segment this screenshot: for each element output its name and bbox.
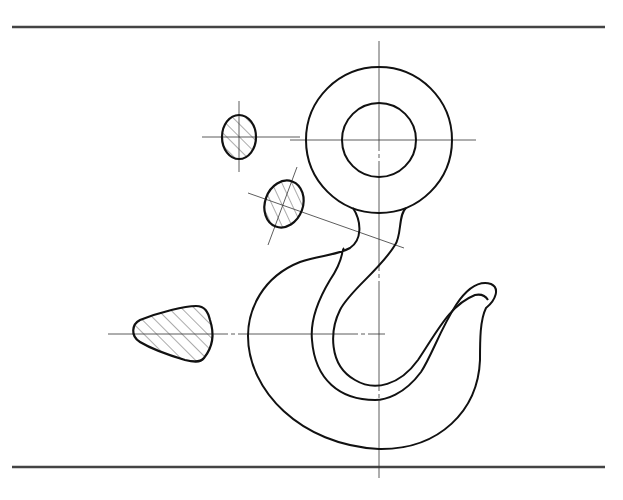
section-shank: [222, 115, 256, 159]
section-neck: [258, 175, 310, 233]
section-hook: [133, 306, 212, 362]
centerlines: [108, 41, 476, 478]
hook-drawing: [0, 0, 623, 500]
hook-body: [248, 208, 496, 449]
